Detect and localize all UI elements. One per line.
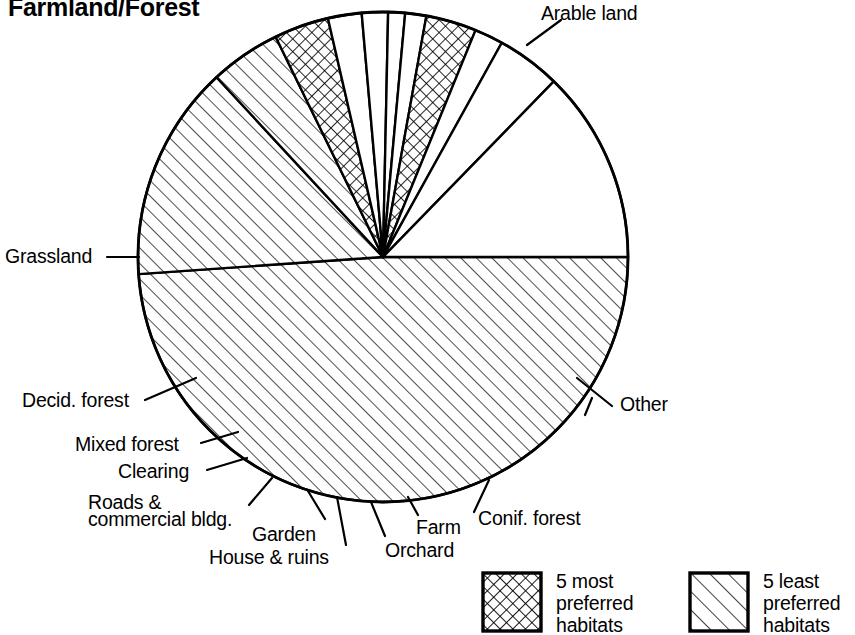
leader-clearing	[207, 458, 247, 470]
leader-house-ruins	[337, 497, 346, 545]
pie-chart-figure: Farmland/Forest	[0, 0, 855, 635]
slice-label-decid-forest: Decid. forest	[22, 390, 129, 411]
legend-label-least-preferred: 5 least preferred habitats	[763, 570, 840, 635]
slice-label-garden: Garden	[252, 524, 316, 545]
pie-slice-arable-land	[139, 257, 628, 502]
leader-roads	[249, 478, 272, 505]
slice-label-orchard: Orchard	[385, 540, 454, 561]
slice-label-arable-land: Arable land	[541, 3, 637, 24]
pie-slices-group	[138, 12, 628, 502]
legend-swatch-least-preferred	[688, 571, 750, 633]
slice-label-farm: Farm	[416, 517, 461, 538]
slice-label-grassland: Grassland	[5, 246, 92, 267]
slice-label-other: Other	[620, 394, 668, 415]
leader-other-b	[585, 398, 592, 415]
slice-label-mixed-forest: Mixed forest	[75, 434, 179, 455]
legend-label-most-preferred: 5 most preferred habitats	[556, 570, 633, 635]
slice-label-house-ruins: House & ruins	[209, 547, 329, 568]
leader-orchard	[371, 502, 385, 536]
slice-label-clearing: Clearing	[118, 461, 189, 482]
legend-swatch-most-preferred	[481, 571, 543, 633]
slice-label-roads-line2: commercial bldg.	[88, 509, 232, 530]
slice-label-conif-forest: Conif. forest	[478, 508, 581, 529]
